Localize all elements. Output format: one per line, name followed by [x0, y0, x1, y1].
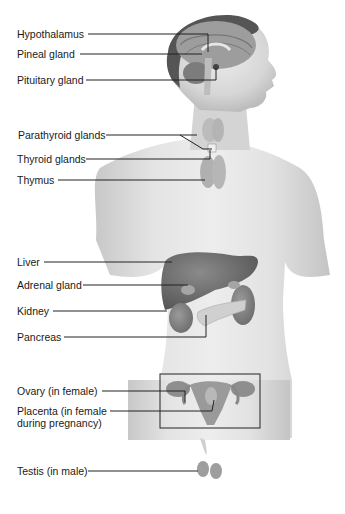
label-placenta-line2: during pregnancy) [17, 417, 102, 429]
left-testis [197, 461, 209, 477]
label-placenta-line1: Placenta (in female [17, 405, 107, 417]
label-adrenal-gland: Adrenal gland [17, 279, 82, 291]
endocrine-diagram: Hypothalamus Pineal gland Pituitary glan… [0, 0, 345, 514]
label-ovary: Ovary (in female) [17, 385, 98, 397]
label-testis: Testis (in male) [17, 465, 88, 477]
label-thymus: Thymus [17, 174, 54, 186]
head [167, 15, 276, 112]
label-thyroid-glands: Thyroid glands [17, 153, 86, 165]
label-parathyroid-glands: Parathyroid glands [18, 129, 106, 141]
right-testis [210, 463, 222, 479]
label-liver: Liver [17, 256, 40, 268]
label-pancreas: Pancreas [17, 331, 61, 343]
label-hypothalamus: Hypothalamus [17, 28, 84, 40]
label-pineal-gland: Pineal gland [17, 48, 75, 60]
left-kidney [169, 303, 193, 333]
label-kidney: Kidney [17, 305, 49, 317]
label-pituitary-gland: Pituitary gland [17, 74, 84, 86]
